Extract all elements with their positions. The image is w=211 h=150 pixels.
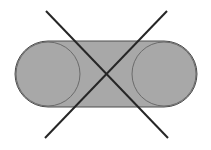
figure-canvas: [0, 0, 211, 150]
figure-svg: [0, 0, 211, 150]
